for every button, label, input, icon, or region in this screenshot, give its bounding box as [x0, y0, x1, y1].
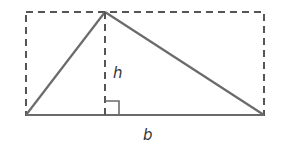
base-label: b — [143, 126, 153, 144]
triangle-area-diagram: h b — [0, 0, 282, 149]
height-label: h — [113, 64, 123, 82]
triangle-left-side — [26, 12, 105, 115]
right-angle-marker — [105, 101, 119, 115]
triangle-right-side — [105, 12, 264, 115]
bounding-rectangle — [26, 12, 264, 115]
